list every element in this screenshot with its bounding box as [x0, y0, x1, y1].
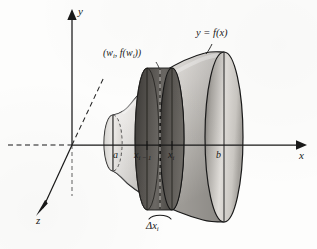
tick-label-x-i-minus-1: xi − 1	[134, 150, 151, 161]
delta-x-brace	[149, 215, 171, 219]
left-bound-label: a	[113, 150, 118, 160]
y-axis-label: y	[78, 6, 83, 17]
sample-point-close: ))	[134, 47, 141, 58]
representative-disk	[135, 68, 184, 210]
delta-x-sub: i	[157, 225, 159, 232]
sample-point-mid: , f(w	[115, 47, 133, 58]
delta-x-label: Δxi	[146, 221, 159, 233]
tick-label-x-i: xi	[168, 150, 174, 161]
figure-drawing	[0, 0, 317, 249]
z-axis-positive	[43, 145, 72, 208]
x-axis-label: x	[299, 150, 304, 161]
point-label-leader	[156, 62, 159, 68]
z-axis-negative-dashed	[72, 77, 104, 145]
solid-of-revolution-figure: y x z y = f(x) (wi, f(wi)) a b xi − 1 xi…	[0, 0, 317, 249]
curve-equation-label: y = f(x)	[196, 28, 228, 39]
delta-x-base: Δx	[146, 220, 157, 231]
left-end-cap	[104, 115, 122, 171]
tick-x-i-minus-1-sub: i − 1	[138, 154, 151, 161]
right-end-cap	[205, 52, 243, 222]
tick-x-i-sub: i	[172, 154, 174, 161]
sample-point-open: (w	[103, 47, 113, 58]
z-axis-label: z	[36, 215, 40, 226]
sample-point-label: (wi, f(wi))	[103, 48, 141, 59]
y-axis-arrowhead	[67, 9, 76, 20]
right-bound-label: b	[216, 150, 221, 160]
